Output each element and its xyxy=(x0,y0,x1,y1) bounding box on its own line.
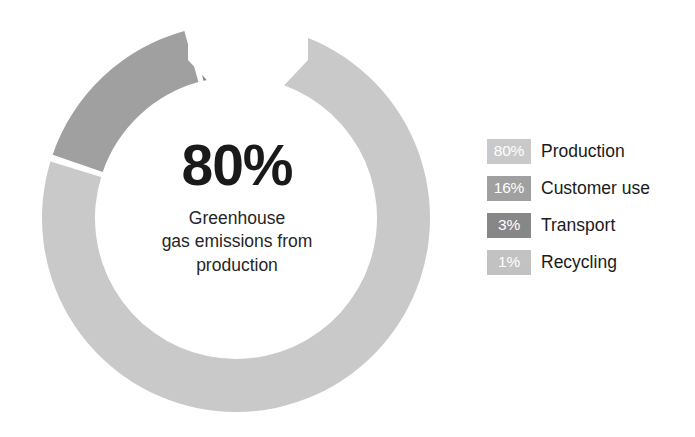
donut-slice-customer-use[interactable] xyxy=(53,31,199,172)
legend-label-transport: Transport xyxy=(541,215,615,236)
legend-item-production[interactable]: 80% Production xyxy=(487,138,687,164)
legend-item-customer-use[interactable]: 16% Customer use xyxy=(487,175,687,201)
donut-slices xyxy=(42,24,430,412)
legend-swatch-recycling: 1% xyxy=(487,250,531,275)
legend-swatch-transport: 3% xyxy=(487,213,531,238)
legend-swatch-customer-use: 16% xyxy=(487,176,531,201)
donut-slice-transport[interactable] xyxy=(191,25,224,81)
legend-swatch-production: 80% xyxy=(487,139,531,164)
legend-label-production: Production xyxy=(541,141,625,162)
donut-slice-recycling[interactable] xyxy=(227,24,233,77)
legend-item-transport[interactable]: 3% Transport xyxy=(487,212,687,238)
donut-chart-svg xyxy=(0,0,470,437)
donut-chart: 80% Greenhouse gas emissions from produc… xyxy=(0,0,470,437)
legend-item-recycling[interactable]: 1% Recycling xyxy=(487,249,687,275)
legend-label-customer-use: Customer use xyxy=(541,178,650,199)
chart-legend: 80% Production 16% Customer use 3% Trans… xyxy=(487,138,687,275)
legend-label-recycling: Recycling xyxy=(541,252,617,273)
